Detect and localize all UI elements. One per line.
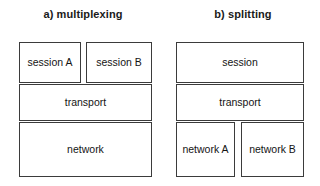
panel-multiplexing-title: a) multiplexing [0,8,166,20]
box-network-a-label: network A [182,144,228,155]
box-session-splitting: session [176,42,304,83]
box-session-b: session B [86,42,152,83]
box-transport-multiplexing-label: transport [65,97,106,108]
box-network-b: network B [241,122,304,177]
box-network-b-label: network B [249,144,296,155]
box-transport-splitting: transport [176,84,304,121]
box-network-multiplexing-label: network [67,144,104,155]
box-network-a: network A [176,122,235,177]
protocol-layering-figure: a) multiplexing session A session B tran… [0,0,320,186]
box-transport-splitting-label: transport [219,97,260,108]
box-session-a-label: session A [28,57,73,68]
box-network-multiplexing: network [19,122,152,177]
panel-splitting-title: b) splitting [166,8,320,20]
box-session-splitting-label: session [222,57,258,68]
box-session-a: session A [19,42,81,83]
box-session-b-label: session B [96,57,142,68]
box-transport-multiplexing: transport [19,84,152,121]
